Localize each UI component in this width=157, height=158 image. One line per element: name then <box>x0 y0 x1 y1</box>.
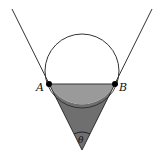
label-theta: θ <box>78 135 84 145</box>
point-a-dot <box>46 81 52 87</box>
point-b-dot <box>112 81 118 87</box>
tangent-line-right <box>82 9 152 150</box>
tangent-line-left <box>12 9 82 150</box>
label-a: A <box>35 81 44 94</box>
label-b: B <box>118 81 127 94</box>
diagram-canvas: A B θ <box>0 0 157 158</box>
